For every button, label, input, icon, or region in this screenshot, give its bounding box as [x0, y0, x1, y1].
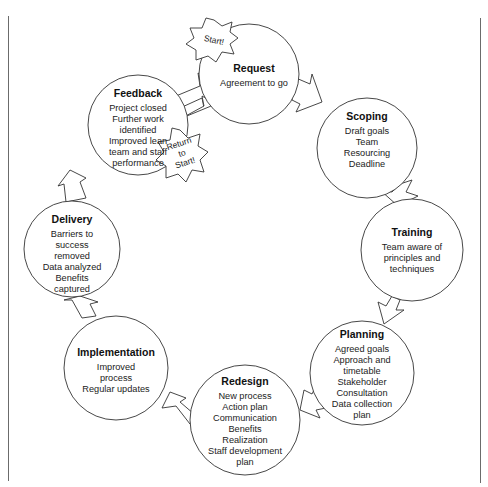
node-line: Action plan — [222, 402, 267, 413]
node-training: Training Team aware of principles and te… — [367, 226, 457, 275]
node-line: Communication — [213, 413, 277, 424]
node-line: identified — [120, 125, 157, 136]
node-title: Training — [392, 226, 433, 239]
node-line: process — [100, 373, 132, 384]
node-line: Team — [356, 137, 378, 148]
node-line: removed — [54, 251, 90, 262]
node-line: Barriers to — [51, 229, 93, 240]
node-line: Agreed goals — [335, 344, 389, 355]
node-line: success — [55, 240, 88, 251]
node-scoping: Scoping Draft goals Team Resourcing Dead… — [322, 110, 412, 170]
node-line: captured — [54, 284, 90, 295]
node-title: Planning — [340, 328, 384, 341]
node-title: Implementation — [77, 346, 155, 359]
node-title: Scoping — [346, 110, 387, 123]
node-line: Approach and — [333, 355, 390, 366]
node-line: Improved — [97, 362, 135, 373]
node-line: Regular updates — [82, 384, 149, 395]
node-line: Draft goals — [345, 126, 389, 137]
node-title: Feedback — [114, 87, 162, 100]
node-line: Project closed — [109, 103, 167, 114]
node-planning: Planning Agreed goals Approach and timet… — [317, 328, 407, 421]
node-feedback: Feedback Project closed Further work ide… — [93, 87, 183, 169]
node-line: Benefits — [228, 424, 261, 435]
node-line: Data analyzed — [43, 262, 102, 273]
node-title: Delivery — [52, 213, 93, 226]
node-line: Resourcing — [344, 148, 390, 159]
node-line: performance — [112, 158, 164, 169]
node-line: Deadline — [349, 159, 385, 170]
arrow-delivery-to-feedback — [58, 170, 86, 202]
node-line: Consultation — [336, 388, 387, 399]
node-line: principles and — [384, 253, 441, 264]
node-line: Staff development — [208, 446, 282, 457]
node-line: Agreement to go — [220, 78, 288, 89]
node-delivery: Delivery Barriers to success removed Dat… — [27, 213, 117, 295]
node-line: techniques — [390, 264, 434, 275]
node-line: Benefits — [55, 273, 88, 284]
node-line: Team aware of — [382, 242, 442, 253]
node-request: Request Agreement to go — [209, 62, 299, 89]
node-line: Further work — [112, 114, 164, 125]
node-implementation: Implementation Improved process Regular … — [66, 346, 166, 395]
node-line: Stakeholder — [337, 377, 386, 388]
arrow-training-to-planning — [378, 296, 404, 324]
node-line: New process — [218, 391, 271, 402]
node-title: Request — [233, 62, 274, 75]
node-title: Redesign — [221, 375, 268, 388]
node-line: plan — [236, 457, 253, 468]
node-line: Improved lean — [109, 136, 167, 147]
node-redesign: Redesign New process Action plan Communi… — [195, 375, 295, 468]
node-line: team and staff — [109, 147, 167, 158]
node-line: plan — [353, 410, 370, 421]
arrow-redesign-to-implementation — [162, 392, 194, 424]
arrow-implementation-to-delivery — [64, 296, 98, 318]
node-line: Realization — [222, 435, 267, 446]
node-line: timetable — [343, 366, 380, 377]
node-line: Data collection — [332, 399, 392, 410]
